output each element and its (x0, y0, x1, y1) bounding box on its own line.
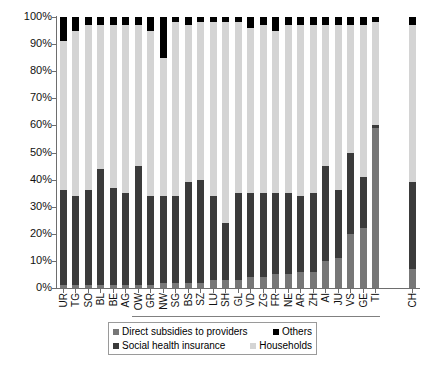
bar-segment (210, 22, 217, 195)
bar-segment (247, 277, 254, 288)
y-axis-tick-mark (52, 125, 56, 126)
x-axis-tick-label: OW (134, 293, 144, 310)
x-axis-tick-label: SG (171, 293, 181, 307)
bar-vd (247, 17, 254, 288)
bar-segment (285, 274, 292, 288)
x-axis-tick-label: SO (84, 293, 94, 307)
bar-segment (210, 196, 217, 280)
bar-segment (185, 17, 192, 25)
bar-segment (222, 280, 229, 288)
bar-segment (272, 31, 279, 194)
x-axis-tick-label: TI (371, 293, 381, 302)
bar-segment (185, 25, 192, 182)
bar-segment (347, 25, 354, 152)
legend-swatch-households-icon (250, 343, 256, 349)
y-axis-tick-mark (52, 207, 56, 208)
bar-ur (60, 17, 67, 288)
y-axis-tick-mark (52, 288, 56, 289)
bar-segment (97, 17, 104, 25)
bar-segment (60, 285, 67, 288)
bar-segment (297, 272, 304, 288)
bar-segment (160, 196, 167, 283)
bar-segment (160, 283, 167, 288)
bar-gl (235, 17, 242, 288)
bar-segment (372, 128, 379, 288)
bar-segment (147, 196, 154, 285)
x-axis-tick-label: CH (408, 293, 418, 307)
y-axis-tick-mark (52, 17, 56, 18)
bar-so (85, 17, 92, 288)
bar-segment (360, 17, 367, 25)
bar-segment (322, 25, 329, 166)
bar-segment (322, 17, 329, 25)
bar-segment (97, 169, 104, 286)
y-axis-tick-label: 30% (30, 201, 52, 212)
bar-segment (272, 193, 279, 274)
bar-segment (147, 31, 154, 196)
y-axis-tick-mark (52, 153, 56, 154)
bar-segment (260, 17, 267, 25)
bar-ge (360, 17, 367, 288)
bar-segment (185, 283, 192, 288)
bar-segment (185, 182, 192, 282)
y-axis-tick-label: 0% (36, 282, 52, 293)
bar-segment (110, 17, 117, 25)
bar-segment (122, 17, 129, 25)
bar-segment (72, 285, 79, 288)
bar-segment (222, 223, 229, 280)
bar-segment (347, 153, 354, 234)
bar-segment (310, 17, 317, 25)
bar-be (110, 17, 117, 288)
bar-segment (260, 193, 267, 277)
legend-item-social-health-insurance: Social health insurance (113, 341, 225, 351)
bar-segment (85, 17, 92, 25)
x-axis-tick-label: GL (234, 293, 244, 306)
x-axis-tick-label: BE (109, 293, 119, 306)
bar-segment (247, 28, 254, 193)
plot-area (57, 17, 419, 288)
x-axis-tick-label: ZG (259, 293, 269, 307)
bar-segment (135, 17, 142, 25)
legend-swatch-direct-subsidies-icon (113, 329, 119, 335)
bar-segment (260, 277, 267, 288)
bar-segment (110, 25, 117, 188)
bar-lu (210, 17, 217, 288)
y-axis-tick-label: 40% (30, 174, 52, 185)
bar-gr (147, 17, 154, 288)
bar-segment (160, 58, 167, 196)
bar-segment (197, 22, 204, 179)
bar-segment (297, 17, 304, 25)
bar-segment (247, 17, 254, 28)
x-axis-group-underline (132, 316, 380, 317)
bar-segment (122, 25, 129, 193)
bar-segment (135, 25, 142, 166)
bar-segment (347, 17, 354, 25)
x-axis-tick-label: SH (221, 293, 231, 307)
bar-segment (322, 261, 329, 288)
y-axis-tick-label: 100% (24, 11, 52, 22)
bar-segment (97, 285, 104, 288)
bar-ag (122, 17, 129, 288)
bar-segment (235, 22, 242, 193)
x-axis-tick-label: GE (359, 293, 369, 307)
bar-segment (85, 25, 92, 190)
x-axis-tick-label: LU (209, 293, 219, 306)
x-axis-tick-label: FR (271, 293, 281, 306)
x-axis-tick-label: BL (96, 293, 106, 305)
legend-swatch-others-icon (273, 329, 279, 335)
legend-label-households: Households (259, 341, 312, 351)
bar-segment (372, 22, 379, 125)
y-axis-tick-labels: 0%10%20%30%40%50%60%70%80%90%100% (0, 0, 52, 300)
bar-nw (160, 17, 167, 288)
bar-ow (135, 17, 142, 288)
bar-segment (147, 285, 154, 288)
y-axis-tick-mark (52, 180, 56, 181)
x-axis-tick-label: ZH (309, 293, 319, 306)
x-axis-tick-label: AR (296, 293, 306, 307)
bar-sg (172, 17, 179, 288)
bar-segment (197, 180, 204, 283)
bar-segment (122, 285, 129, 288)
y-axis-tick-mark (52, 234, 56, 235)
bar-segment (360, 228, 367, 288)
bar-ar (297, 17, 304, 288)
